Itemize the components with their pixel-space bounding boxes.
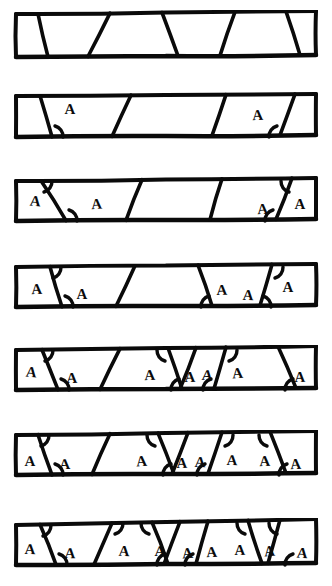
- angle-label-7-8: A: [263, 543, 275, 560]
- strip-top-edge: [16, 346, 316, 350]
- angle-label-4-2: A: [77, 286, 88, 302]
- angle-label-3-3: A: [257, 201, 269, 218]
- angle-label-7-1: A: [25, 541, 36, 557]
- transversal-3-3: [210, 179, 222, 220]
- transversal-3-1: [41, 181, 66, 221]
- angle-label-2-2: A: [252, 107, 264, 124]
- strip-left-edge: [16, 14, 17, 57]
- angle-arc-7-7: [237, 523, 245, 534]
- strip-bottom-edge: [16, 473, 316, 475]
- strip-geometry-3: [16, 178, 316, 221]
- strip-top-edge: [16, 178, 316, 181]
- angle-label-5-4: A: [184, 369, 195, 385]
- angle-label-5-5: A: [201, 367, 213, 384]
- transversal-4-2: [116, 266, 135, 307]
- transversal-5-5: [214, 347, 226, 389]
- transversal-3-4: [276, 178, 292, 219]
- transversal-7-4: [164, 522, 180, 564]
- strip-7: AAAAAAAAA: [0, 518, 332, 578]
- angle-label-3-2: A: [91, 196, 103, 213]
- angle-arc-6-3: [147, 435, 155, 446]
- transversal-1-2: [88, 13, 110, 56]
- strip-geometry-1: [16, 11, 317, 57]
- angle-label-5-2: A: [66, 370, 77, 386]
- strip-4: AAAAA: [0, 262, 332, 320]
- transversal-5-2: [100, 349, 120, 390]
- angle-label-6-2: A: [59, 456, 71, 472]
- strip-bottom-edge: [16, 55, 316, 57]
- angle-label-3-1: A: [29, 193, 41, 210]
- transversal-2-1: [40, 96, 52, 137]
- transversal-6-2: [92, 434, 110, 475]
- strip-6: AAAAAAAA: [0, 430, 332, 488]
- transversal-2-3: [212, 95, 226, 136]
- transversal-2-2: [112, 95, 131, 136]
- angle-label-5-3: A: [144, 367, 156, 383]
- transversal-1-5: [286, 11, 300, 55]
- strip-bottom-edge: [16, 219, 316, 221]
- transversal-2-4: [280, 94, 295, 135]
- strip-5: AAAAAAA: [0, 345, 332, 403]
- angle-label-2-1: A: [65, 101, 76, 117]
- transversal-1-1: [38, 14, 48, 57]
- strip-3: AAAA: [0, 176, 332, 234]
- angle-label-3-4: A: [295, 196, 306, 212]
- transversal-6-5: [208, 432, 222, 473]
- angle-label-5-1: A: [25, 364, 37, 381]
- angle-label-7-7: A: [234, 542, 245, 558]
- angle-arc-4-5: [275, 267, 283, 278]
- angle-label-4-1: A: [31, 281, 43, 298]
- angle-label-6-7: A: [259, 453, 271, 469]
- strip-top-edge: [16, 519, 316, 525]
- angle-arc-7-4: [141, 523, 149, 534]
- angle-label-5-6: A: [232, 365, 244, 382]
- angle-label-4-3: A: [216, 282, 227, 298]
- angle-label-7-2: A: [65, 545, 76, 561]
- angle-arc-4-1: [53, 267, 61, 278]
- angle-label-6-4: A: [176, 455, 187, 471]
- angle-label-7-6: A: [206, 544, 218, 561]
- strip-geometry-5: [16, 346, 316, 390]
- angle-label-6-5: A: [194, 454, 206, 471]
- transversal-1-3: [162, 13, 178, 56]
- transversal-6-1: [38, 435, 52, 475]
- strip-top-edge: [16, 94, 316, 96]
- angle-label-6-3: A: [136, 453, 148, 470]
- transversal-1-4: [220, 12, 235, 56]
- angle-arc-5-6: [229, 350, 237, 361]
- angle-label-6-6: A: [227, 452, 238, 468]
- angle-label-7-3: A: [118, 543, 130, 559]
- angle-label-6-8: A: [290, 456, 302, 473]
- transversal-7-2: [94, 523, 112, 564]
- angle-arc-6-6: [225, 435, 233, 446]
- transversal-3-2: [126, 180, 142, 221]
- strip-top-edge: [16, 11, 316, 14]
- angle-arc-6-7: [259, 435, 267, 446]
- angle-label-4-4: A: [242, 287, 254, 303]
- angle-label-6-1: A: [25, 453, 36, 469]
- strip-1: [0, 10, 332, 72]
- transversal-7-6: [248, 520, 262, 563]
- strip-bottom-edge: [16, 135, 316, 137]
- angle-label-4-5: A: [283, 279, 294, 295]
- angle-label-5-7: A: [294, 369, 305, 385]
- strip-2: AA: [0, 92, 332, 150]
- angle-arc-5-3: [157, 350, 165, 361]
- angle-label-7-9: A: [296, 545, 308, 562]
- strip-bottom-edge: [16, 388, 316, 390]
- angle-strips-figure: AAAAAAAAAAAAAAAAAAAAAAAAAAAAAAAAAAA: [0, 0, 332, 586]
